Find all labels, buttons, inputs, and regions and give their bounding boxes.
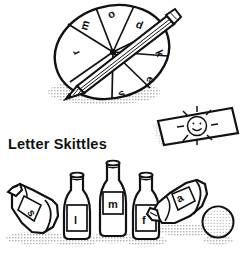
- textured-ball: [203, 207, 234, 238]
- bottle-letter-m: m: [108, 198, 118, 210]
- bottle-letter-l: l: [74, 214, 77, 226]
- page-title: Letter Skittles: [8, 137, 107, 152]
- bottle-letter-f: f: [142, 214, 146, 226]
- illustration-scene: m o d k e s f r: [0, 0, 242, 264]
- spinner-hub: [110, 49, 116, 55]
- illustration-canvas: m o d k e s f r: [0, 0, 242, 264]
